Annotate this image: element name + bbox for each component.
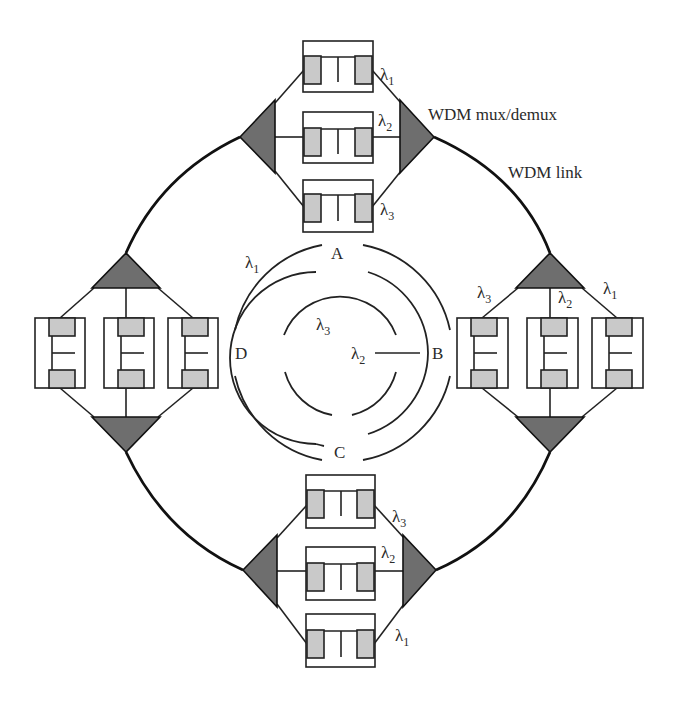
transceiver-box: [592, 318, 643, 388]
wavelength-label: λ1: [603, 279, 617, 302]
mux-demux-icon: [516, 253, 584, 288]
wdm-link-top-right: [434, 137, 550, 253]
mux-demux-icon: [403, 535, 436, 607]
transceiver-box: [104, 318, 154, 388]
node-label-b: B: [432, 344, 443, 363]
wdm-link-bottom-right: [436, 452, 550, 570]
transceiver-box: [303, 112, 373, 163]
transceiver-box: [35, 318, 85, 388]
transceiver-box: [303, 180, 373, 232]
transceiver-box: [527, 318, 578, 388]
mux-demux-icon: [240, 100, 275, 173]
wdm-mux-demux-label: WDM mux/demux: [428, 105, 557, 124]
ring-outer: [363, 376, 450, 460]
transceiver-box: [306, 547, 375, 600]
mux-demux-icon: [243, 535, 277, 607]
node-label-a: A: [331, 244, 344, 263]
mux-demux-icon: [92, 417, 160, 452]
mux-demux-icon: [516, 417, 584, 452]
ring-middle: [316, 444, 324, 446]
logical-ring: A B C D λ1 λ3 λ2: [230, 244, 450, 462]
node-right: λ3 λ2 λ1: [457, 253, 643, 452]
wavelength-label: λ2: [558, 288, 572, 311]
wavelength-label: λ1: [380, 65, 394, 88]
transceiver-box: [303, 41, 373, 92]
wavelength-label: λ3: [477, 283, 491, 306]
node-label-c: C: [334, 443, 345, 462]
wavelength-label: λ2: [381, 543, 395, 566]
transceiver-box: [457, 318, 508, 388]
ring-outer: [363, 245, 450, 330]
mux-demux-icon: [92, 253, 160, 288]
transceiver-box: [168, 318, 218, 388]
wdm-ring-diagram: λ1 λ2 λ3 WDM mux/demux WDM link: [0, 0, 679, 701]
ring-outer: [235, 376, 322, 460]
node-top: λ1 λ2 λ3: [240, 41, 434, 232]
transceiver-box: [306, 614, 375, 667]
ring-inner: [352, 372, 396, 415]
wdm-link-label: WDM link: [508, 163, 583, 182]
ring-inner: [285, 372, 332, 415]
node-label-d: D: [235, 344, 247, 363]
wdm-link-top-left: [126, 137, 240, 253]
node-left: [35, 253, 218, 452]
wdm-link-bottom-left: [126, 452, 243, 570]
ring-inner: [284, 297, 396, 335]
wavelength-label: λ1: [245, 253, 259, 276]
node-bottom: λ3 λ2 λ1: [243, 475, 436, 667]
wavelength-label: λ3: [316, 315, 330, 338]
transceiver-box: [306, 475, 375, 528]
wavelength-label: λ2: [378, 111, 392, 134]
wavelength-label: λ3: [380, 200, 394, 223]
wavelength-label: λ1: [395, 626, 409, 649]
wavelength-label: λ2: [351, 344, 365, 367]
